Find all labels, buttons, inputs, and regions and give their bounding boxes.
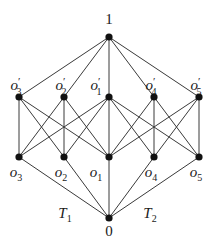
node-o5 (195, 153, 202, 160)
node-label-o5: o5 (190, 164, 203, 183)
node-label-o2: o2 (55, 164, 68, 183)
lattice-diagram: 1o′3o′2o′1o′4o′5o3o2o1o4o50T1T2 (0, 0, 217, 251)
node-label-o4: o4 (145, 164, 158, 183)
labels-group: 1o′3o′2o′1o′4o′5o3o2o1o4o50T1T2 (10, 11, 203, 239)
node-label-o4p: o′4 (146, 75, 157, 97)
node-top (105, 33, 112, 40)
edge-o2-bottom (64, 157, 109, 218)
node-label-bottom: 0 (105, 223, 113, 239)
node-label-o1: o1 (90, 164, 103, 183)
node-label-o3p: o′3 (11, 75, 22, 97)
node-o1p (105, 93, 112, 100)
node-label-o5p: o′5 (191, 75, 202, 97)
node-o3 (15, 153, 22, 160)
region-label-1: T1 (58, 205, 71, 224)
edge-top-o2p (64, 37, 109, 97)
edge-o5-bottom (109, 157, 199, 218)
node-o1 (105, 153, 112, 160)
node-label-o2p: o′2 (56, 75, 67, 97)
region-label-2: T2 (143, 205, 156, 224)
lattice-canvas: 1o′3o′2o′1o′4o′5o3o2o1o4o50T1T2 (0, 0, 217, 251)
node-o2 (60, 153, 67, 160)
node-o4 (150, 153, 157, 160)
node-label-o3: o3 (10, 164, 23, 183)
node-label-top: 1 (105, 11, 113, 27)
node-bottom (105, 214, 112, 221)
edges-group (19, 37, 199, 218)
node-label-o1p: o′1 (91, 75, 102, 97)
